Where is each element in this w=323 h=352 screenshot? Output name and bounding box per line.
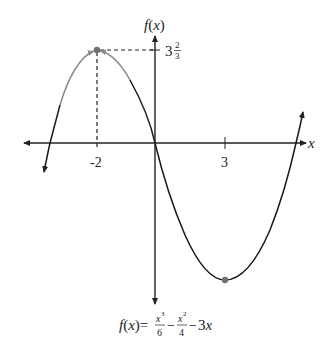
svg-text:3x: 3x — [198, 317, 213, 333]
function-graph: f(x) x -2 3 3 2 3 f(x)= x 3 6 − x 2 4 − … — [0, 0, 323, 352]
svg-text:6: 6 — [157, 327, 162, 338]
svg-text:3: 3 — [161, 310, 165, 318]
svg-text:2: 2 — [183, 310, 187, 318]
x-tick-label-neg2: -2 — [90, 155, 102, 170]
svg-text:−: − — [189, 318, 197, 333]
curve-main — [130, 80, 303, 280]
x-tick-label-3: 3 — [221, 155, 228, 170]
function-formula: f(x)= x 3 6 − x 2 4 − 3x — [119, 310, 213, 338]
x-axis-label: x — [307, 135, 315, 151]
y-axis-label: f(x) — [144, 17, 165, 34]
curve-max-highlight-left — [60, 51, 94, 105]
svg-text:3: 3 — [175, 51, 180, 61]
svg-text:4: 4 — [179, 327, 184, 338]
local-min-point — [222, 277, 228, 283]
svg-text:−: − — [167, 318, 175, 333]
y-tick-label-max: 3 2 3 — [165, 40, 181, 61]
curve-left-tail — [44, 105, 60, 172]
svg-text:3: 3 — [165, 43, 173, 59]
svg-text:f(x)=: f(x)= — [119, 317, 148, 334]
local-max-point — [94, 47, 100, 53]
curve-max-highlight-right — [100, 51, 130, 80]
svg-text:2: 2 — [175, 40, 180, 50]
